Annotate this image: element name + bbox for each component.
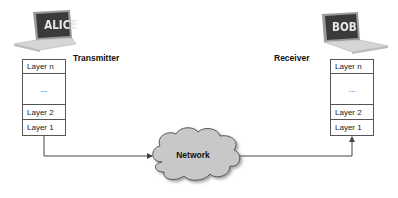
- receiver-layer-1: Layer 1: [331, 120, 373, 135]
- receiver-layer-n: Layer n: [331, 60, 373, 74]
- receiver-label: Receiver: [274, 53, 309, 63]
- transmitter-layer-stack: Layer n ... Layer 2 Layer 1: [22, 59, 66, 136]
- transmitter-label: Transmitter: [73, 53, 119, 63]
- receiver-layer-2: Layer 2: [331, 105, 373, 120]
- transmitter-layer-n: Layer n: [23, 60, 65, 74]
- transmitter-layer-1: Layer 1: [23, 120, 65, 135]
- transmitter-layer-2: Layer 2: [23, 105, 65, 120]
- bob-screen-label: BOB: [332, 19, 357, 34]
- receiver-layer-stack: Layer n ... Layer 2 Layer 1: [330, 59, 374, 136]
- transmitter-layer-ellipsis: ...: [23, 74, 65, 105]
- network-to-receiver-connector: [240, 137, 352, 156]
- receiver-layer-ellipsis: ...: [331, 74, 373, 105]
- transmitter-to-network-connector: [44, 135, 152, 156]
- network-label: Network: [148, 150, 238, 160]
- alice-screen-label: ALICE: [44, 17, 77, 32]
